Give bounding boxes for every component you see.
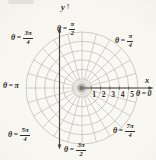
equals-sign: = xyxy=(120,37,125,45)
equals-sign: = xyxy=(69,146,74,154)
fraction: 3π 4 xyxy=(23,30,32,46)
angle-label-zero: θ = 0 xyxy=(136,90,151,98)
polar-grid-figure: y ↑ x θ = π 2 θ = π 4 θ = 3π 4 θ = π xyxy=(0,0,156,160)
radial-tick-1: 1 xyxy=(92,91,96,99)
y-axis-label: y ↑ xyxy=(61,3,70,12)
angle-label-7pi-over-4: θ = 7π 4 xyxy=(113,123,135,139)
equals-sign: = xyxy=(118,127,123,135)
page-corner-artifact xyxy=(8,0,34,4)
fraction: π 4 xyxy=(127,33,133,49)
theta-symbol: θ xyxy=(57,25,61,33)
fraction: 3π 2 xyxy=(76,142,85,158)
equals-sign: = xyxy=(16,34,21,42)
radial-tick-4: 4 xyxy=(121,91,125,99)
radial-tick-2: 2 xyxy=(102,91,106,99)
fraction: 7π 4 xyxy=(125,123,134,139)
y-letter: y xyxy=(61,3,65,12)
x-axis-label: x xyxy=(145,76,149,85)
up-arrow-icon: ↑ xyxy=(66,2,71,11)
angle-label-5pi-over-4: θ = 5π 4 xyxy=(8,127,30,143)
equals-sign: = xyxy=(141,90,146,98)
angle-label-3pi-over-4: θ = 3π 4 xyxy=(11,30,33,46)
angle-label-pi-over-4: θ = π 4 xyxy=(115,33,133,49)
theta-symbol: θ xyxy=(64,146,68,154)
angle-label-pi-over-2: θ = π 2 xyxy=(57,21,75,37)
equals-sign: = xyxy=(13,131,18,139)
theta-symbol: θ xyxy=(11,34,15,42)
theta-symbol: θ xyxy=(3,82,7,90)
theta-symbol: θ xyxy=(136,90,140,98)
theta-symbol: θ xyxy=(8,131,12,139)
theta-symbol: θ xyxy=(113,127,117,135)
fraction: π 2 xyxy=(69,21,75,37)
radial-tick-5: 5 xyxy=(130,91,134,99)
equals-sign: = xyxy=(62,25,67,33)
equals-sign: = xyxy=(8,82,13,90)
fraction: 5π 4 xyxy=(20,127,29,143)
theta-symbol: θ xyxy=(115,37,119,45)
radial-tick-3: 3 xyxy=(111,91,115,99)
angle-label-3pi-over-2: θ = 3π 2 xyxy=(64,142,86,158)
angle-label-pi: θ = π xyxy=(3,82,19,90)
